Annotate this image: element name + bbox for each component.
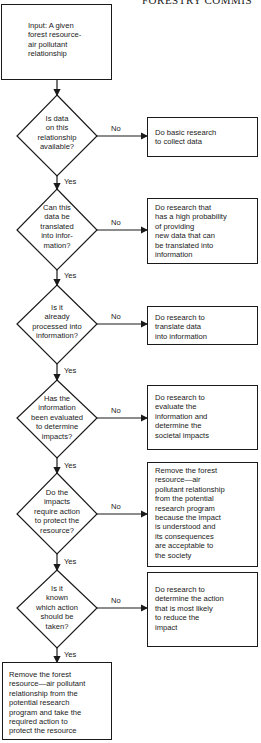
- no-label-3: No: [111, 312, 121, 321]
- yes-label-1: Yes: [64, 177, 76, 186]
- decision-1-question: Is data on this relationship available?: [17, 114, 97, 152]
- decision-3-question: Is it already processed into information…: [17, 303, 97, 341]
- action-box-1: Do basic research to collect data: [147, 117, 258, 157]
- decision-4-question: Has the information been evaluated to de…: [17, 394, 97, 441]
- action-box-2: Do research that has a high probability …: [147, 198, 258, 264]
- yes-label-6: Yes: [64, 650, 76, 659]
- action-box-5: Remove the forest resource—air pollutant…: [147, 462, 258, 567]
- decision-5-question: Do the impacts require action to protect…: [17, 488, 97, 535]
- yes-label-5: Yes: [64, 557, 76, 566]
- no-label-6: No: [111, 596, 121, 605]
- yes-label-2: Yes: [64, 271, 76, 280]
- start-box: Input: A given forest resource- air poll…: [1, 4, 112, 80]
- action-box-3: Do research to translate data into infor…: [147, 306, 258, 345]
- no-label-2: No: [111, 218, 121, 227]
- no-label-5: No: [111, 502, 121, 511]
- yes-label-4: Yes: [64, 461, 76, 470]
- end-box: Remove the forest resource—air pollutant…: [2, 662, 112, 740]
- no-label-1: No: [111, 124, 121, 133]
- decision-2-question: Can this data be translated into infor- …: [17, 203, 97, 250]
- decision-6-question: Is it known which action should be taken…: [17, 584, 97, 631]
- action-box-6: Do research to determine the action that…: [147, 572, 258, 647]
- action-box-4: Do research to evaluate the information …: [147, 385, 258, 450]
- yes-label-3: Yes: [64, 366, 76, 375]
- no-label-4: No: [111, 406, 121, 415]
